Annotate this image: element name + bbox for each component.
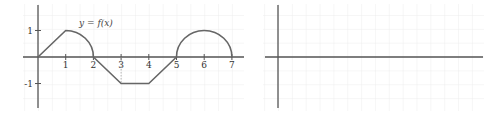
x-tick-label-7: 7 bbox=[229, 60, 235, 70]
x-tick-label-5: 5 bbox=[174, 60, 180, 70]
x-tick-label-2: 2 bbox=[91, 60, 97, 70]
function-label: y = f(x) bbox=[78, 18, 113, 28]
left-chart: 1 2 3 4 5 6 7 1 -1 y = f(x) bbox=[23, 4, 244, 111]
x-tick-label-4: 4 bbox=[146, 60, 152, 70]
x-tick-label-1: 1 bbox=[63, 60, 69, 70]
y-tick-label-pos1: 1 bbox=[27, 26, 33, 36]
chart-canvas: 1 2 3 4 5 6 7 1 -1 y = f(x) bbox=[0, 0, 502, 116]
x-tick-label-6: 6 bbox=[201, 60, 207, 70]
y-tick-label-neg1: -1 bbox=[24, 79, 33, 89]
right-chart bbox=[263, 4, 484, 111]
